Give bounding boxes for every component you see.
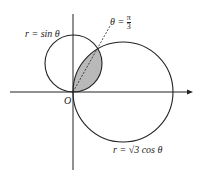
theta-eq: θ =: [110, 16, 124, 27]
cos-curve-label: r = √3 cos θ: [113, 144, 162, 155]
origin-label: O: [64, 95, 71, 106]
sin-curve-label: r = sin θ: [25, 28, 60, 39]
fraction-den: 3: [127, 23, 131, 31]
x-axis-arrow: [187, 90, 193, 95]
pi-over-3: π 3: [127, 14, 131, 31]
polar-diagram: [0, 0, 198, 178]
theta-label: θ = π 3: [110, 14, 131, 31]
